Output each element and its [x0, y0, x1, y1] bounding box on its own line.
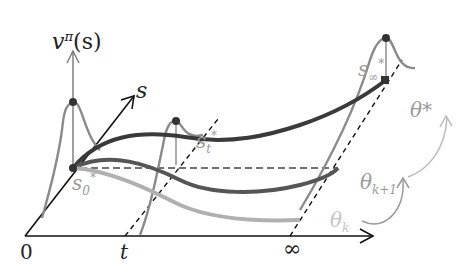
sinf-label: s∞* [358, 58, 384, 83]
curve-theta-star [73, 80, 386, 168]
theta-k-label: θk [330, 210, 349, 234]
value-axis-label: vπ(s) [52, 30, 102, 53]
time-t-label: t [120, 242, 128, 262]
theta-star-label: θ* [410, 100, 432, 120]
time-axis [25, 229, 373, 243]
value-axis [67, 51, 79, 170]
curve-theta-k [73, 168, 300, 220]
state-axis-label: s [136, 80, 147, 102]
origin-label: 0 [20, 242, 33, 262]
arrow-k1-to-star [408, 118, 447, 177]
theta-k1-label: θk+1 [360, 172, 397, 196]
s0-label: s0* [72, 172, 96, 197]
st-label: st* [196, 130, 217, 155]
point-s0-value [69, 98, 77, 106]
time-inf-label: ∞ [283, 238, 301, 260]
point-sinf-value [382, 34, 390, 42]
point-st-value [172, 117, 180, 125]
